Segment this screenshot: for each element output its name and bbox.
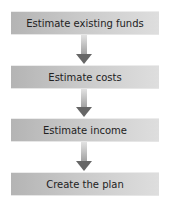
- step-label: Estimate income: [43, 125, 127, 136]
- step-estimate-costs: Estimate costs: [11, 66, 159, 88]
- down-arrow-icon: [76, 142, 92, 171]
- step-label: Estimate costs: [48, 72, 121, 83]
- step-estimate-existing-funds: Estimate existing funds: [11, 12, 159, 34]
- down-arrow-icon: [76, 89, 92, 117]
- down-arrow-icon: [76, 35, 92, 64]
- step-label: Estimate existing funds: [26, 18, 144, 29]
- step-estimate-income: Estimate income: [11, 119, 159, 141]
- step-create-the-plan: Create the plan: [11, 173, 159, 195]
- step-label: Create the plan: [46, 179, 124, 190]
